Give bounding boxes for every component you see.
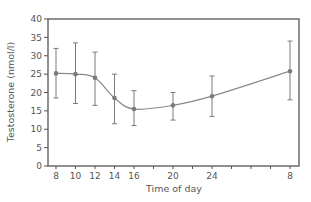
x-tick-label: 14 (109, 171, 121, 181)
data-point (73, 72, 78, 77)
x-tick-label: 8 (287, 171, 293, 181)
x-tick-label: 20 (167, 171, 179, 181)
y-axis-title: Testosterone (nmol/l) (5, 42, 16, 143)
data-point (93, 76, 98, 81)
data-point (112, 96, 117, 101)
data-point (132, 107, 137, 112)
x-tick-label: 10 (70, 171, 82, 181)
y-tick-label: 25 (31, 69, 42, 79)
data-point (210, 94, 215, 99)
y-tick-label: 5 (36, 143, 42, 153)
y-tick-label: 0 (36, 161, 42, 171)
y-tick-label: 40 (31, 14, 43, 24)
data-point (171, 103, 176, 108)
x-axis-title: Time of day (145, 183, 202, 194)
y-tick-label: 20 (31, 88, 43, 98)
x-tick-label: 24 (206, 171, 218, 181)
x-axis: 81012141620248 (53, 166, 293, 181)
testosterone-chart: 0510152025303540 81012141620248 Time of … (0, 0, 311, 202)
y-tick-label: 10 (31, 124, 43, 134)
data-point (288, 69, 293, 74)
y-tick-label: 15 (31, 106, 42, 116)
x-tick-label: 12 (89, 171, 100, 181)
data-series (54, 41, 293, 126)
y-axis: 0510152025303540 (31, 14, 48, 171)
data-point (54, 71, 59, 76)
x-tick-label: 16 (128, 171, 140, 181)
x-tick-label: 8 (53, 171, 59, 181)
y-tick-label: 30 (31, 51, 43, 61)
y-tick-label: 35 (31, 33, 42, 43)
